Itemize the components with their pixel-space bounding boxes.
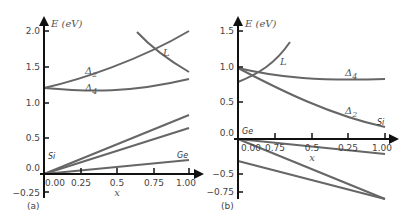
panel-a: 2.0 1.5 1.0 0.5 0.0 −0.25 0.00 0.25 0.5 … — [12, 16, 204, 211]
label-si-a: Si — [48, 152, 56, 161]
line-1-a — [44, 115, 189, 174]
panel-label-b: (b) — [221, 201, 234, 211]
curve-delta2-a — [44, 31, 189, 88]
line-3-b — [238, 161, 385, 199]
xtick-b-4: 1.00 — [372, 143, 392, 153]
label-ge-b: Ge — [242, 127, 253, 136]
ytick-b-3: 0.0 — [220, 128, 235, 138]
ytick-b-1: 1.0 — [220, 62, 235, 72]
xtick-a-4: 1.00 — [176, 178, 196, 188]
ytick-a-1: 1.5 — [26, 62, 40, 72]
y-axis-arrow-b — [233, 16, 243, 26]
y-axis-arrow-a — [39, 16, 49, 26]
curve-delta4-b — [238, 68, 385, 80]
label-delta4-a: Δ4 — [84, 82, 97, 96]
xtick-a-3: 0.75 — [144, 178, 164, 188]
curve-delta2-b — [238, 68, 385, 127]
xtick-b-3: 0.25 — [338, 143, 358, 153]
curve-delta4-a — [44, 79, 189, 91]
panel-b: 1.5 1.0 0.5 0.0 −0.5 −0.75 0.00 0.75 0.5… — [206, 16, 399, 211]
xtick-a-1: 0.25 — [71, 178, 91, 188]
ytick-b-5: −0.75 — [206, 187, 234, 197]
ytick-a-3: 0.5 — [26, 133, 40, 143]
ytick-a-5: −0.25 — [12, 188, 40, 198]
ylabel-b: E (eV) — [244, 18, 277, 29]
ylabel-a: E (eV) — [50, 18, 83, 29]
ytick-a-2: 1.0 — [26, 98, 41, 108]
label-L-a: L — [162, 47, 170, 58]
xlabel-b: x — [309, 152, 315, 163]
xtick-b-1: 0.75 — [265, 143, 285, 153]
ytick-b-0: 1.5 — [220, 26, 234, 36]
figure: 2.0 1.5 1.0 0.5 0.0 −0.25 0.00 0.25 0.5 … — [0, 0, 417, 224]
panel-label-a: (a) — [27, 201, 40, 211]
xtick-b-0: 0.00 — [241, 143, 261, 153]
ytick-b-2: 0.5 — [220, 97, 234, 107]
xlabel-a: x — [114, 187, 120, 198]
label-ge-a: Ge — [177, 151, 188, 160]
ytick-a-4: 0.0 — [26, 163, 41, 173]
xtick-a-0: 0.00 — [45, 178, 65, 188]
label-si-b: Si — [377, 118, 385, 127]
ytick-a-0: 2.0 — [26, 26, 41, 36]
ytick-b-4: −0.5 — [212, 169, 234, 179]
label-L-b: L — [279, 56, 287, 67]
